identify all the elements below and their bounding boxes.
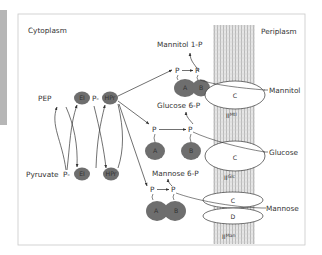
mannose-product-label: Mannose 6-P bbox=[152, 169, 199, 178]
mannitol-domain-c-label: C bbox=[233, 92, 237, 99]
mannose-phosphate-b: P bbox=[171, 185, 176, 194]
hpr-label-top: HPr bbox=[105, 94, 116, 101]
glucose-phosphate-b: P bbox=[188, 125, 193, 134]
pyruvate-label: Pyruvate bbox=[26, 170, 59, 179]
mannose-domain-b-label: B bbox=[174, 207, 178, 214]
side-strip bbox=[0, 10, 7, 125]
glucose-phosphate-a: P bbox=[152, 125, 157, 134]
glucose-product-label: Glucose 6-P bbox=[157, 101, 201, 110]
glucose-transporter-sup: Glc bbox=[228, 174, 236, 179]
glucose-domain-c-label: C bbox=[233, 154, 237, 161]
phospho-prefix-top: P- bbox=[92, 94, 99, 103]
pts-diagram: Cytoplasm Periplasm EI P- HPr EI HPr PEP… bbox=[0, 0, 322, 255]
mannose-transporter-sup: Man bbox=[226, 233, 236, 238]
ei-label-bottom: EI bbox=[79, 170, 85, 177]
pyruvate-phospho-prefix: P- bbox=[63, 170, 70, 179]
pep-label: PEP bbox=[38, 94, 52, 103]
mannose-substrate-label: Mannose bbox=[266, 204, 299, 213]
mannose-phosphate-a: P bbox=[150, 185, 155, 194]
mannitol-phosphate-a: P bbox=[175, 66, 180, 75]
glucose-domain-b-label: B bbox=[189, 147, 193, 154]
ei-label-top: EI bbox=[79, 94, 85, 101]
mannitol-product-label: Mannitol 1-P bbox=[157, 40, 203, 49]
hpr-label-bottom: HPr bbox=[106, 170, 117, 177]
mannitol-transporter-sup: Mtl bbox=[230, 112, 237, 117]
mannitol-domain-b-label: B bbox=[199, 84, 203, 91]
mannitol-phosphate-b: P bbox=[195, 66, 200, 75]
mannose-domain-c-label: C bbox=[231, 197, 235, 204]
mannose-domain-d-label: D bbox=[231, 213, 236, 220]
periplasm-label: Periplasm bbox=[261, 27, 297, 36]
mannitol-substrate-label: Mannitol bbox=[269, 86, 300, 95]
glucose-substrate-label: Glucose bbox=[269, 148, 299, 157]
cytoplasm-label: Cytoplasm bbox=[28, 26, 67, 35]
